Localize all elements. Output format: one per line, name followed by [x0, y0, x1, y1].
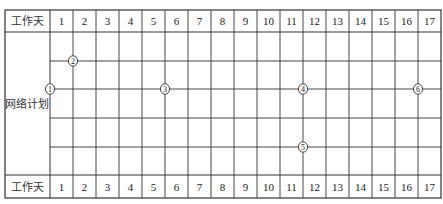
node-label: 6	[416, 85, 420, 94]
header-day-10: 10	[263, 15, 275, 27]
footer-day-9: 9	[243, 181, 249, 193]
node-1: 1	[45, 84, 54, 94]
header-day-8: 8	[220, 15, 226, 27]
header-day-cells: 1234567891011121314151617	[59, 15, 436, 27]
header-day-3: 3	[105, 15, 111, 27]
node-5: 5	[298, 142, 307, 152]
footer-day-8: 8	[220, 181, 226, 193]
header-day-4: 4	[128, 15, 134, 27]
table-border	[5, 10, 441, 198]
header-row: 工作天	[11, 15, 44, 28]
footer-day-17: 17	[424, 181, 436, 193]
header-day-13: 13	[332, 15, 344, 27]
node-4: 4	[298, 84, 307, 94]
header-day-12: 12	[309, 15, 320, 27]
node-label: 2	[71, 57, 75, 66]
footer-day-4: 4	[128, 181, 134, 193]
row-label-network-plan: 网络计划	[5, 97, 49, 111]
node-label: 1	[48, 85, 52, 94]
grid-lines	[5, 10, 441, 198]
header-day-6: 6	[174, 15, 180, 27]
network-plan-chart: 工作天 1234567891011121314151617 工作天 123456…	[0, 0, 443, 204]
header-day-9: 9	[243, 15, 249, 27]
header-day-11: 11	[286, 15, 297, 27]
footer-day-16: 16	[401, 181, 413, 193]
header-day-17: 17	[424, 15, 436, 27]
footer-day-15: 15	[378, 181, 390, 193]
footer-day-11: 11	[286, 181, 297, 193]
node-label: 5	[301, 143, 305, 152]
footer-day-10: 10	[263, 181, 275, 193]
node-3: 3	[160, 84, 169, 94]
footer-day-13: 13	[332, 181, 344, 193]
node-2: 2	[68, 56, 77, 66]
footer-day-3: 3	[105, 181, 111, 193]
header-day-5: 5	[151, 15, 157, 27]
node-6: 6	[413, 84, 422, 94]
footer-day-7: 7	[197, 181, 203, 193]
header-label-workday: 工作天	[11, 15, 44, 28]
node-label: 4	[301, 85, 305, 94]
footer-day-5: 5	[151, 181, 157, 193]
footer-day-6: 6	[174, 181, 180, 193]
header-day-7: 7	[197, 15, 203, 27]
footer-day-cells: 1234567891011121314151617	[59, 181, 436, 193]
footer-day-12: 12	[309, 181, 320, 193]
footer-day-1: 1	[59, 181, 65, 193]
header-day-2: 2	[82, 15, 88, 27]
header-day-1: 1	[59, 15, 65, 27]
footer-label-workday: 工作天	[11, 181, 44, 194]
footer-day-2: 2	[82, 181, 88, 193]
footer-day-14: 14	[355, 181, 367, 193]
header-day-15: 15	[378, 15, 390, 27]
node-label: 3	[163, 85, 167, 94]
header-day-14: 14	[355, 15, 367, 27]
footer-row: 工作天	[11, 181, 44, 194]
header-day-16: 16	[401, 15, 413, 27]
